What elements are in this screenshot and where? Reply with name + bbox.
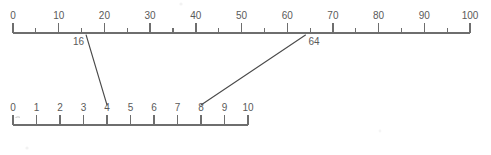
bottom-tick-label-9: 9 bbox=[222, 102, 228, 113]
top-tick-label-90: 90 bbox=[419, 10, 431, 21]
top-tick-label-20: 20 bbox=[99, 10, 111, 21]
bottom-origin-mark bbox=[16, 117, 21, 118]
top-tick-label-60: 60 bbox=[282, 10, 294, 21]
top-tick-label-70: 70 bbox=[327, 10, 339, 21]
top-tick-label-50: 50 bbox=[236, 10, 248, 21]
bottom-tick-label-7: 7 bbox=[175, 102, 181, 113]
noise-speck-right bbox=[379, 130, 382, 133]
connector-lines bbox=[86, 35, 305, 105]
bottom-tick-label-4: 4 bbox=[104, 102, 110, 113]
top-tick-label-80: 80 bbox=[373, 10, 385, 21]
bottom-number-line: 012345678910 bbox=[10, 102, 254, 125]
bottom-tick-label-2: 2 bbox=[57, 102, 63, 113]
connector-16-to-4 bbox=[86, 35, 107, 105]
bottom-tick-label-1: 1 bbox=[34, 102, 40, 113]
top-tick-label-0: 0 bbox=[10, 10, 16, 21]
value-labels: 1664 bbox=[73, 36, 320, 47]
top-tick-label-10: 10 bbox=[53, 10, 65, 21]
diagram-canvas: 0102030405060708090100 012345678910 1664 bbox=[0, 0, 491, 155]
top-number-line: 0102030405060708090100 bbox=[10, 10, 479, 33]
top-tick-label-100: 100 bbox=[462, 10, 479, 21]
bottom-tick-label-5: 5 bbox=[128, 102, 134, 113]
noise-speck-bottom bbox=[25, 146, 28, 149]
top-tick-label-40: 40 bbox=[190, 10, 202, 21]
bottom-tick-label-0: 0 bbox=[10, 102, 16, 113]
number-line-diagram: 0102030405060708090100 012345678910 1664 bbox=[0, 0, 491, 155]
top-value-label-64: 64 bbox=[308, 36, 320, 47]
noise-speck-top bbox=[179, 2, 182, 5]
bottom-tick-label-6: 6 bbox=[151, 102, 157, 113]
connector-64-to-8 bbox=[201, 35, 305, 105]
top-value-label-16: 16 bbox=[73, 36, 85, 47]
top-tick-label-30: 30 bbox=[145, 10, 157, 21]
bottom-tick-label-3: 3 bbox=[81, 102, 87, 113]
bottom-tick-label-10: 10 bbox=[242, 102, 254, 113]
image-noise-layer bbox=[25, 2, 381, 149]
